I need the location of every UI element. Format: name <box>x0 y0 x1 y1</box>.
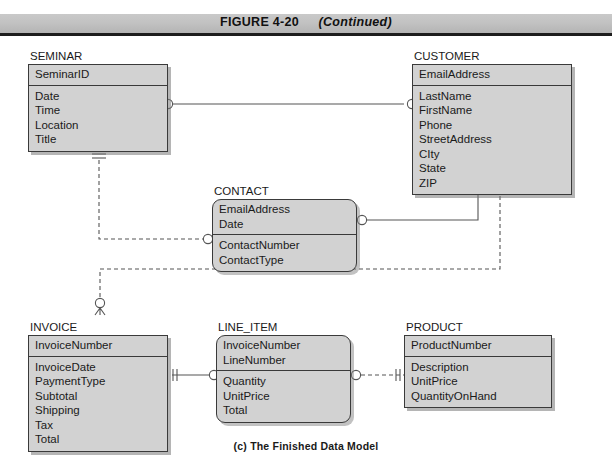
entity-contact[interactable]: CONTACT EmailAddress Date ContactNumber … <box>212 185 357 272</box>
entity-customer-body: EmailAddress LastName FirstName Phone St… <box>412 64 572 195</box>
attribute: Date <box>29 89 167 104</box>
entity-seminar[interactable]: SEMINAR SeminarID Date Time Location Tit… <box>28 50 168 152</box>
attribute: UnitPrice <box>405 374 551 389</box>
attribute: Location <box>29 118 167 133</box>
entity-product-attributes: Description UnitPrice QuantityOnHand <box>405 357 551 408</box>
connector-line_item-product <box>344 369 404 381</box>
entity-line-item-attributes: Quantity UnitPrice Total <box>217 371 350 422</box>
attribute: State <box>413 161 571 176</box>
er-diagram: SEMINAR SeminarID Date Time Location Tit… <box>0 36 612 436</box>
entity-seminar-key-attributes: SeminarID <box>29 65 167 86</box>
attribute: EmailAddress <box>413 67 571 82</box>
attribute: Description <box>405 360 551 375</box>
attribute: PaymentType <box>29 374 167 389</box>
entity-line-item-body: InvoiceNumber LineNumber Quantity UnitPr… <box>216 335 351 423</box>
attribute: CIty <box>413 147 571 162</box>
attribute: SeminarID <box>29 67 167 82</box>
entity-product-key-attributes: ProductNumber <box>405 336 551 357</box>
attribute: ContactNumber <box>213 238 356 253</box>
attribute: Phone <box>413 118 571 133</box>
attribute: ContactType <box>213 253 356 268</box>
attribute: InvoiceNumber <box>217 338 350 353</box>
entity-customer-attributes: LastName FirstName Phone StreetAddress C… <box>413 86 571 195</box>
entity-contact-name: CONTACT <box>214 185 357 198</box>
entity-contact-key-attributes: EmailAddress Date <box>213 200 356 235</box>
attribute: Tax <box>29 418 167 433</box>
attribute: Title <box>29 132 167 147</box>
entity-invoice-name: INVOICE <box>30 321 168 334</box>
entity-line-item-key-attributes: InvoiceNumber LineNumber <box>217 336 350 371</box>
attribute: Date <box>213 217 356 232</box>
connector-seminar-contact <box>92 154 220 244</box>
attribute: InvoiceNumber <box>29 338 167 353</box>
entity-customer-name: CUSTOMER <box>414 50 572 63</box>
connector-seminar-customer <box>156 99 424 109</box>
attribute: UnitPrice <box>217 389 350 404</box>
attribute: Time <box>29 103 167 118</box>
attribute: Subtotal <box>29 389 167 404</box>
attribute: Total <box>217 403 350 418</box>
entity-product-body: ProductNumber Description UnitPrice Quan… <box>404 335 552 408</box>
entity-seminar-name: SEMINAR <box>30 50 168 63</box>
entity-product[interactable]: PRODUCT ProductNumber Description UnitPr… <box>404 321 552 408</box>
figure-continued-label: (Continued) <box>319 15 392 29</box>
figure-header-text: FIGURE 4-20 (Continued) <box>0 15 612 29</box>
attribute: EmailAddress <box>213 202 356 217</box>
entity-customer[interactable]: CUSTOMER EmailAddress LastName FirstName… <box>412 50 572 195</box>
entity-invoice-key-attributes: InvoiceNumber <box>29 336 167 357</box>
entity-invoice-attributes: InvoiceDate PaymentType Subtotal Shippin… <box>29 357 167 451</box>
figure-caption: (c) The Finished Data Model <box>0 440 612 452</box>
attribute: StreetAddress <box>413 132 571 147</box>
attribute: Quantity <box>217 374 350 389</box>
attribute: ProductNumber <box>405 338 551 353</box>
entity-seminar-attributes: Date Time Location Title <box>29 86 167 151</box>
attribute: LastName <box>413 89 571 104</box>
entity-invoice-body: InvoiceNumber InvoiceDate PaymentType Su… <box>28 335 168 452</box>
figure-number: FIGURE 4-20 <box>220 15 299 29</box>
attribute: ZIP <box>413 176 571 191</box>
entity-line-item-name: LINE_ITEM <box>218 321 351 334</box>
entity-product-name: PRODUCT <box>406 321 552 334</box>
attribute: FirstName <box>413 103 571 118</box>
attribute: QuantityOnHand <box>405 389 551 404</box>
entity-customer-key-attributes: EmailAddress <box>413 65 571 86</box>
entity-seminar-body: SeminarID Date Time Location Title <box>28 64 168 152</box>
entity-contact-body: EmailAddress Date ContactNumber ContactT… <box>212 199 357 272</box>
entity-contact-attributes: ContactNumber ContactType <box>213 235 356 271</box>
attribute: InvoiceDate <box>29 360 167 375</box>
attribute: LineNumber <box>217 353 350 368</box>
attribute: Shipping <box>29 403 167 418</box>
entity-invoice[interactable]: INVOICE InvoiceNumber InvoiceDate Paymen… <box>28 321 168 452</box>
entity-line-item[interactable]: LINE_ITEM InvoiceNumber LineNumber Quant… <box>216 321 351 423</box>
figure-header-bar: FIGURE 4-20 (Continued) <box>0 14 612 36</box>
